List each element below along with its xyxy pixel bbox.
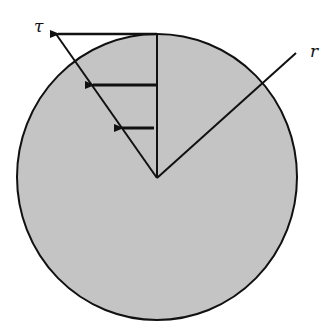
shear-stress-diagram: τ r <box>0 0 334 327</box>
r-label: r <box>310 41 319 61</box>
tau-label: τ <box>34 16 44 36</box>
